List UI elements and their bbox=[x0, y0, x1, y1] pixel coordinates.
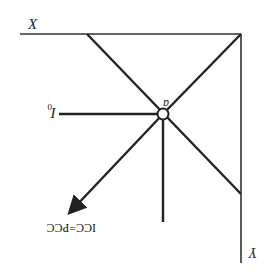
icc-pcc-label: ICC=PCC bbox=[47, 221, 96, 235]
icc-pcc-arrow bbox=[74, 114, 163, 208]
diagram-canvas: X Y a I 0 ICC=PCC bbox=[0, 0, 268, 279]
x-axis-label: X bbox=[27, 16, 38, 32]
point-a-label: a bbox=[163, 97, 169, 111]
indifference-subscript: 0 bbox=[47, 102, 52, 112]
y-axis-label: Y bbox=[247, 245, 257, 260]
budget-line-2 bbox=[163, 34, 241, 114]
